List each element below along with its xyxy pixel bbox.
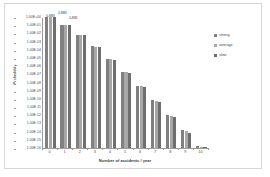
bar (113, 60, 116, 148)
plot-area (42, 18, 208, 149)
bar (158, 102, 161, 148)
x-tick-mark (57, 148, 58, 150)
data-label: 0.883 (46, 14, 55, 18)
y-tick-mark (14, 43, 16, 44)
y-tick-mark (14, 92, 16, 93)
bar-group (58, 18, 73, 148)
legend-swatch-icon (214, 44, 217, 47)
chart-legend: strongaverageslow (214, 30, 259, 60)
y-tick-mark (14, 133, 16, 134)
y-tick-mark (14, 84, 16, 85)
y-tick-mark (14, 26, 16, 27)
data-label: 0.881 (69, 16, 78, 20)
x-tick-mark (87, 148, 88, 150)
x-tick-mark (42, 148, 43, 150)
y-tick-label: 1.00E-15 (16, 139, 41, 143)
x-tick-label: 6 (139, 150, 141, 154)
y-tick-label: 1.00E-03 (16, 41, 41, 45)
bar-group (149, 18, 164, 148)
y-tick-label: 1.00E-07 (16, 74, 41, 78)
y-tick-label: 1.00E-13 (16, 123, 41, 127)
legend-item[interactable]: slow (214, 50, 259, 60)
bar (83, 35, 86, 148)
y-tick-mark (14, 75, 16, 76)
y-axis-tick-labels: 1.00E+001.00E-011.00E-021.00E-031.00E-04… (16, 18, 41, 149)
y-tick-mark (14, 59, 16, 60)
x-tick-label: 2 (79, 150, 81, 154)
x-tick-mark (117, 148, 118, 150)
x-tick-label: 7 (154, 150, 156, 154)
y-tick-label: 1.00E-10 (16, 98, 41, 102)
x-tick-mark (148, 148, 149, 150)
y-tick-label: 1.00E-16 (16, 147, 41, 151)
y-tick-mark (14, 67, 16, 68)
y-tick-mark (14, 100, 16, 101)
y-tick-mark (14, 149, 16, 150)
y-tick-mark (14, 34, 16, 35)
chart-frame: Probability 1.00E+001.00E-011.00E-021.00… (4, 3, 262, 169)
bar (128, 73, 131, 148)
y-tick-mark (14, 108, 16, 109)
x-tick-mark (208, 148, 209, 150)
y-tick-mark (14, 124, 16, 125)
legend-item[interactable]: average (214, 40, 259, 50)
y-tick-label: 1.00E-02 (16, 33, 41, 37)
x-tick-label: 0 (48, 150, 50, 154)
x-tick-label: 9 (184, 150, 186, 154)
legend-item-label: slow (219, 53, 227, 57)
x-tick-mark (102, 148, 103, 150)
bar-group (164, 18, 179, 148)
x-tick-mark (72, 148, 73, 150)
x-tick-label: 3 (94, 150, 96, 154)
bar-group (103, 18, 118, 148)
y-tick-label: 1.00E-04 (16, 49, 41, 53)
y-tick-mark (14, 116, 16, 117)
x-tick-mark (178, 148, 179, 150)
x-tick-label: 5 (124, 150, 126, 154)
bar (203, 147, 206, 148)
bar (173, 117, 176, 148)
bar-group (194, 18, 209, 148)
x-tick-mark (163, 148, 164, 150)
x-axis-title: Number of accidents / year (42, 158, 208, 163)
y-tick-label: 1.00E-12 (16, 115, 41, 119)
y-tick-label: 1.00E-08 (16, 82, 41, 86)
x-tick-label: 4 (109, 150, 111, 154)
y-tick-label: 1.00E-01 (16, 24, 41, 28)
x-tick-label: 10 (198, 150, 202, 154)
bar-group (134, 18, 149, 148)
bar (98, 47, 101, 148)
y-tick-label: 1.00E-09 (16, 90, 41, 94)
data-label: 0.883 (58, 11, 67, 15)
legend-swatch-icon (214, 34, 217, 37)
bar (188, 133, 191, 148)
bar-group (88, 18, 103, 148)
y-tick-mark (14, 141, 16, 142)
y-tick-label: 1.00E-05 (16, 57, 41, 61)
legend-item-label: strong (219, 33, 230, 37)
bar-group (43, 18, 58, 148)
legend-item[interactable]: strong (214, 30, 259, 40)
legend-swatch-icon (214, 54, 217, 57)
x-tick-label: 1 (64, 150, 66, 154)
y-tick-label: 1.00E-06 (16, 65, 41, 69)
y-tick-label: 1.00E-11 (16, 106, 41, 110)
bar-group (118, 18, 133, 148)
bar (68, 25, 71, 148)
y-tick-mark (14, 18, 16, 19)
bar-group (73, 18, 88, 148)
x-tick-label: 8 (169, 150, 171, 154)
x-tick-mark (133, 148, 134, 150)
bar (53, 17, 56, 148)
y-tick-label: 1.00E+00 (16, 16, 41, 20)
y-tick-label: 1.00E-14 (16, 131, 41, 135)
legend-item-label: average (219, 43, 233, 47)
x-tick-mark (193, 148, 194, 150)
bar (143, 87, 146, 148)
y-tick-mark (14, 51, 16, 52)
bar-group (179, 18, 194, 148)
